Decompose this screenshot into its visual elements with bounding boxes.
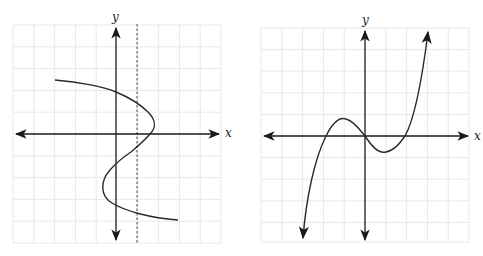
- x-axis-label: x: [474, 130, 481, 142]
- y-axis-label: y: [112, 11, 119, 23]
- left-graph-canvas: [0, 0, 240, 256]
- x-axis-label: x: [225, 127, 232, 139]
- right-graph: y x: [240, 0, 483, 256]
- left-graph: y x: [0, 0, 240, 256]
- y-axis-label: y: [362, 14, 369, 26]
- right-graph-canvas: [240, 0, 483, 256]
